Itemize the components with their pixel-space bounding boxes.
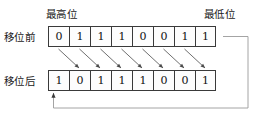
msb-label: 最高位 <box>46 8 77 21</box>
bit-cell: 1 <box>111 26 132 47</box>
shift-arrow-6 <box>164 49 185 68</box>
shift-arrow-2 <box>80 49 101 68</box>
shift-arrow-5 <box>143 49 164 68</box>
shift-arrow-1 <box>59 49 80 68</box>
shift-arrow-4 <box>122 49 143 68</box>
lsb-label: 最低位 <box>204 8 235 21</box>
shift-register-diagram: 最高位 最低位 移位前 移位后 0 1 1 1 0 0 1 1 1 0 1 1 … <box>0 0 260 124</box>
bit-cell: 1 <box>174 26 195 47</box>
bit-cell: 0 <box>48 26 69 47</box>
bit-cell: 1 <box>69 26 90 47</box>
bit-cell: 1 <box>195 70 216 91</box>
bit-cell: 0 <box>174 70 195 91</box>
bit-cell: 1 <box>48 70 69 91</box>
after-shift-label: 移位后 <box>4 75 35 88</box>
shift-arrow-7 <box>185 49 206 68</box>
bit-cell: 0 <box>153 70 174 91</box>
bit-cell: 1 <box>90 26 111 47</box>
after-shift-bit-row: 1 0 1 1 1 0 0 1 <box>48 70 216 91</box>
shift-arrow-3 <box>101 49 122 68</box>
before-shift-label: 移位前 <box>4 31 35 44</box>
bit-cell: 0 <box>153 26 174 47</box>
bit-cell: 1 <box>195 26 216 47</box>
bit-cell: 0 <box>69 70 90 91</box>
before-shift-bit-row: 0 1 1 1 0 0 1 1 <box>48 26 216 47</box>
bit-cell: 0 <box>132 26 153 47</box>
diagonal-shift-arrows <box>59 49 206 68</box>
bit-cell: 1 <box>132 70 153 91</box>
bit-cell: 1 <box>90 70 111 91</box>
bit-cell: 1 <box>111 70 132 91</box>
